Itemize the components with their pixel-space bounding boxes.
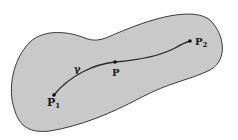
point-p	[113, 60, 117, 64]
label-p: P	[112, 67, 120, 78]
diagram: γ P1 P P2	[0, 0, 238, 140]
point-p2	[188, 39, 192, 43]
gamma-label: γ	[74, 63, 81, 74]
